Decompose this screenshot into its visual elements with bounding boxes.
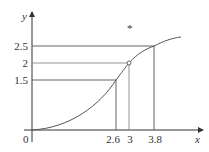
y-axis-label: y <box>21 10 27 22</box>
open-point <box>127 61 131 65</box>
origin-label: 0 <box>23 133 29 145</box>
y-tick-label: 1.5 <box>14 74 28 86</box>
x-tick-label: 3 <box>127 133 133 145</box>
x-tick-label: 2.6 <box>106 133 120 145</box>
asterisk-marker: * <box>127 22 133 34</box>
function-curve <box>32 37 181 130</box>
y-tick-label: 2.5 <box>14 40 28 52</box>
function-graph: * y x 0 2.5 2 1.5 2.6 3 3.8 <box>0 0 209 152</box>
y-tick-label: 2 <box>23 57 29 69</box>
x-axis-label: x <box>194 133 200 145</box>
x-tick-label: 3.8 <box>148 133 162 145</box>
